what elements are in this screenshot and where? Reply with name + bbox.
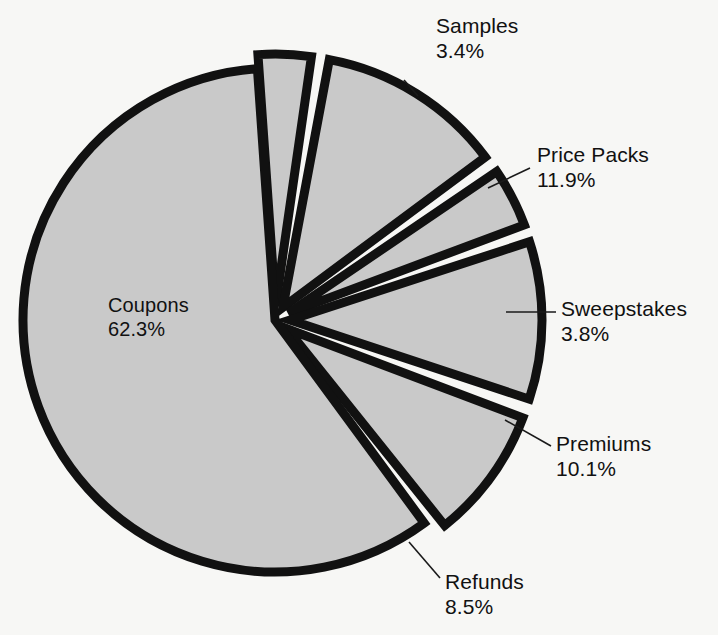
slice-label-percent-refunds: 8.5% (445, 595, 524, 620)
slice-label-name-samples: Samples (436, 14, 518, 37)
slice-label-percent-sweepstakes: 3.8% (561, 322, 687, 347)
slice-label-price-packs: Price Packs11.9% (537, 143, 649, 193)
slice-label-name-refunds: Refunds (445, 570, 524, 593)
slice-label-percent-price-packs: 11.9% (537, 168, 649, 193)
slice-label-percent-premiums: 10.1% (556, 457, 651, 482)
slice-label-name-price-packs: Price Packs (537, 143, 649, 166)
slice-label-samples: Samples3.4% (436, 14, 518, 64)
slice-label-coupons: Coupons62.3% (108, 294, 189, 341)
slice-label-name-coupons: Coupons (108, 294, 189, 316)
slice-label-refunds: Refunds8.5% (445, 570, 524, 620)
slice-label-sweepstakes: Sweepstakes3.8% (561, 297, 687, 347)
slice-label-percent-samples: 3.4% (436, 39, 518, 64)
pie-chart-figure: Samples3.4%Price Packs11.9%Sweepstakes3.… (0, 0, 718, 635)
slice-label-name-premiums: Premiums (556, 432, 651, 455)
slice-label-premiums: Premiums10.1% (556, 432, 651, 482)
leader-line-refunds (409, 542, 440, 578)
slice-label-percent-coupons: 62.3% (108, 318, 189, 342)
slice-label-name-sweepstakes: Sweepstakes (561, 297, 687, 320)
